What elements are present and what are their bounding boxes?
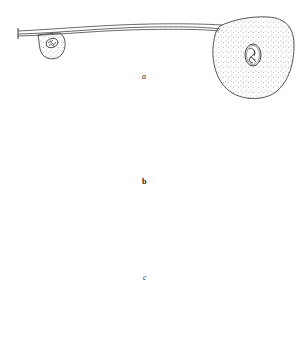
illustration-canvas bbox=[0, 0, 306, 342]
figure: a b c bbox=[0, 0, 306, 342]
panel-label-c: c bbox=[143, 274, 147, 282]
panel-a bbox=[18, 17, 294, 99]
panel-label-b: b bbox=[142, 178, 146, 186]
panel-a-large-cell bbox=[213, 17, 294, 99]
panel-a-small-cell bbox=[38, 33, 65, 59]
panel-label-a: a bbox=[142, 73, 146, 81]
